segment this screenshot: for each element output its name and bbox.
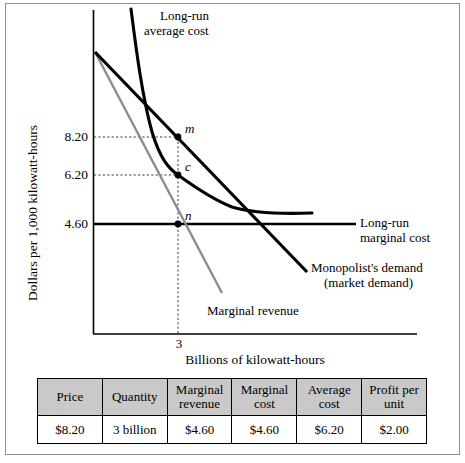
- x-tick-label-3: 3: [170, 336, 188, 351]
- y-axis-label: Dollars per 1,000 kilowatt-hours: [25, 118, 41, 308]
- table-header-price: Price: [38, 379, 103, 416]
- table-header-marginal-revenue: Marginalrevenue: [167, 379, 232, 416]
- point-n-marker: [175, 221, 182, 228]
- table-header-quantity: Quantity: [102, 379, 167, 416]
- table-row: $8.20 3 billion $4.60 $4.60 $6.20 $2.00: [38, 416, 427, 444]
- table-cell-average-cost: $6.20: [297, 416, 362, 444]
- point-label-n: n: [185, 208, 192, 223]
- table-cell-marginal-cost: $4.60: [232, 416, 297, 444]
- table-header-marginal-cost: Marginalcost: [232, 379, 297, 416]
- label-long-run-average-cost-line1: Long-run: [160, 8, 209, 23]
- point-m-marker: [175, 134, 182, 141]
- point-label-m: m: [185, 121, 194, 136]
- summary-table-wrapper: Price Quantity Marginalrevenue Marginalc…: [37, 378, 427, 444]
- label-marginal-revenue: Marginal revenue: [207, 303, 299, 318]
- x-axis-label: Billions of kilowatt-hours: [93, 352, 417, 368]
- table-cell-profit-per-unit: $2.00: [362, 416, 427, 444]
- y-tick-label-620: 6.20: [46, 167, 88, 182]
- point-c-marker: [175, 172, 182, 179]
- label-long-run-average-cost-line2: average cost: [144, 23, 209, 38]
- y-tick-label-460: 4.60: [46, 216, 88, 231]
- table-header-profit-per-unit: Profit perunit: [362, 379, 427, 416]
- curve-marginal-revenue: [95, 52, 222, 293]
- table-header-average-cost: Averagecost: [297, 379, 362, 416]
- summary-table: Price Quantity Marginalrevenue Marginalc…: [37, 378, 427, 444]
- label-long-run-marginal-cost-line1: Long-run: [360, 215, 409, 230]
- label-monopolists-demand-line2: (market demand): [324, 275, 413, 290]
- label-long-run-marginal-cost-line2: marginal cost: [360, 230, 430, 245]
- table-header-row: Price Quantity Marginalrevenue Marginalc…: [38, 379, 427, 416]
- figure-natural-monopoly: Dollars per 1,000 kilowatt-hours Billion…: [0, 0, 465, 463]
- table-cell-quantity: 3 billion: [102, 416, 167, 444]
- point-label-c: c: [185, 159, 191, 174]
- y-tick-label-820: 8.20: [46, 129, 88, 144]
- chart-area: Dollars per 1,000 kilowatt-hours Billion…: [0, 0, 465, 370]
- label-monopolists-demand-line1: Monopolist's demand: [311, 260, 423, 275]
- table-cell-marginal-revenue: $4.60: [167, 416, 232, 444]
- curve-monopolists-demand: [95, 52, 307, 272]
- table-cell-price: $8.20: [38, 416, 103, 444]
